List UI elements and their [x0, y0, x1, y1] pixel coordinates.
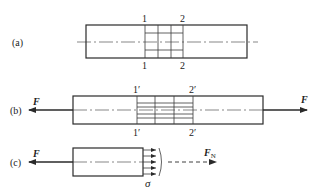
bar-tension-diagram: (a) 1 2 1 2 (b) F — [0, 0, 320, 196]
panel-a-label: (a) — [12, 37, 23, 49]
section-1-bottom-label: 1 — [142, 60, 147, 71]
section-2p-bottom-label: 2′ — [189, 127, 196, 138]
section-2p-top-label: 2′ — [189, 84, 196, 95]
panel-a: (a) 1 2 1 2 — [12, 13, 258, 71]
section-2-top-label: 2 — [180, 13, 185, 24]
section-2-bottom-label: 2 — [180, 60, 185, 71]
force-left-label: F — [32, 148, 40, 159]
section-1p-top-label: 1′ — [133, 84, 140, 95]
panel-c-label: (c) — [10, 157, 21, 169]
panel-b: (b) F F 1′ 2′ 1′ 2′ — [10, 84, 308, 138]
panel-b-label: (b) — [10, 105, 22, 117]
stress-brace — [159, 148, 162, 176]
section-1p-bottom-label: 1′ — [133, 127, 140, 138]
panel-c: (c) F σ FN — [10, 147, 216, 189]
force-right-label: F — [300, 94, 308, 105]
stress-sigma-label: σ — [145, 177, 151, 189]
force-left-label: F — [32, 96, 40, 107]
stress-distribution-arrows — [143, 150, 156, 174]
resultant-force-label: FN — [203, 147, 216, 160]
section-1-top-label: 1 — [142, 13, 147, 24]
grid-region — [145, 25, 183, 58]
bar-body — [86, 25, 247, 58]
